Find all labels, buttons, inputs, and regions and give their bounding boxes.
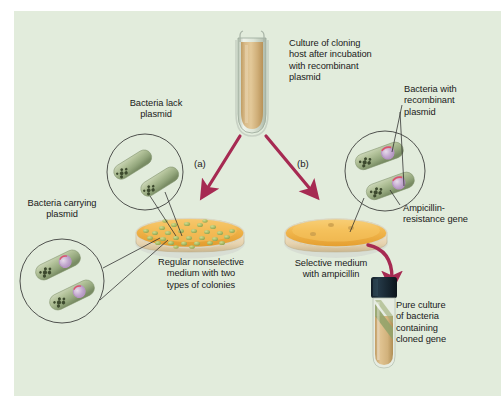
inset-bacteria-carrying-plasmid [20,239,104,323]
label-step-b: (b) [297,158,309,169]
label-ampicillin-resistance-gene: Ampicillin- resistance gene [403,203,499,226]
inset-bacteria-recombinant-plasmid [345,131,425,211]
label-step-a: (a) [194,158,206,169]
culture-tube [236,31,268,136]
label-regular-nonselective-medium: Regular nonselective medium with two typ… [135,257,267,291]
label-bacteria-with-recombinant-plasmid: Bacteria with recombinant plasmid [404,84,500,118]
pure-culture-tube [371,277,397,368]
figure-root: Culture of cloning host after incubation… [0,0,501,396]
label-selective-medium-with-ampicillin: Selective medium with ampicillin [277,258,385,281]
label-bacteria-lack-plasmid: Bacteria lack plasmid [98,98,214,121]
label-bacteria-carrying-plasmid: Bacteria carrying plasmid [2,198,122,221]
nonselective-petri-dish [135,219,245,259]
label-pure-culture-of-bacteria: Pure culture of bacteria containing clon… [396,300,496,346]
label-culture-of-cloning-host: Culture of cloning host after incubation… [289,38,407,84]
arrow-to-nonselective [207,136,240,189]
selective-petri-dish [284,219,388,258]
